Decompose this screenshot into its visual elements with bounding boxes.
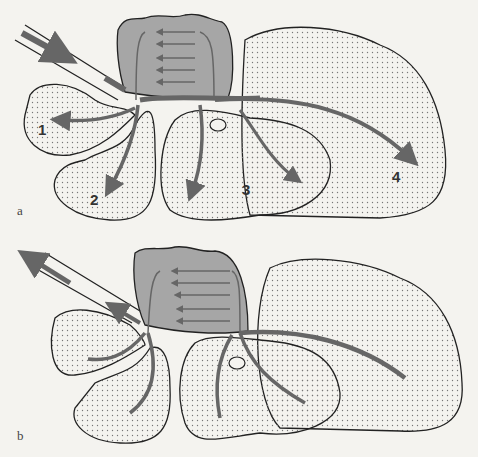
gray-region	[117, 14, 232, 98]
panel-a: 1 2 3 4	[15, 14, 446, 220]
panel-label-a: a	[17, 203, 23, 219]
panel-label-b: b	[17, 428, 24, 444]
outflow-arrow	[30, 258, 70, 283]
panel-b	[30, 247, 462, 443]
label-4: 4	[392, 168, 401, 185]
label-1: 1	[38, 121, 46, 138]
label-3: 3	[242, 181, 250, 198]
diagram-canvas: 1 2 3 4	[0, 0, 478, 457]
label-2: 2	[90, 191, 98, 208]
